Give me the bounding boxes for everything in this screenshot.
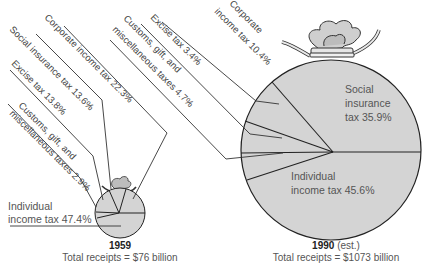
pie-1959: Corporate income tax 22.3% Social insura… bbox=[8, 12, 167, 238]
label-social-insurance-1990-line1: Social bbox=[345, 83, 374, 95]
pie-1990: Social insurance tax 35.9% Individual in… bbox=[110, 0, 421, 240]
label-individual-1959-line1: Individual bbox=[8, 200, 52, 212]
label-individual-1990-line2: income tax 45.6% bbox=[291, 184, 374, 196]
label-individual-1990-line1: Individual bbox=[291, 170, 335, 182]
total-receipts-1959: Total receipts = $76 billion bbox=[62, 252, 177, 263]
year-1990: 1990 bbox=[312, 240, 334, 251]
label-social-insurance-1990-line2: insurance bbox=[345, 97, 391, 109]
label-corporate-1959: Corporate income tax 22.3% bbox=[43, 12, 136, 105]
year-1959: 1959 bbox=[109, 240, 131, 251]
caption-1959: 1959 Total receipts = $76 billion bbox=[50, 240, 190, 264]
total-receipts-1990: Total receipts = $1073 billion bbox=[273, 252, 399, 263]
bag-tie-icon-1990 bbox=[282, 21, 379, 57]
label-customs-1959-line2: miscellaneous taxes 2.9% bbox=[8, 108, 94, 194]
label-social-insurance-1990-line3: tax 35.9% bbox=[345, 111, 392, 123]
caption-1990: 1990 (est.) Total receipts = $1073 billi… bbox=[256, 240, 416, 264]
tax-receipts-figure: Social insurance tax 35.9% Individual in… bbox=[0, 0, 426, 268]
label-individual-1959-line2: income tax 47.4% bbox=[8, 213, 91, 225]
year-note-1990: (est.) bbox=[337, 240, 360, 251]
